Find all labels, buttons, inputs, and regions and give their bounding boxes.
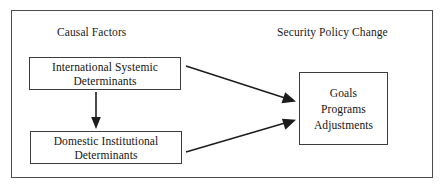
node-domestic-institutional-determinants: Domestic Institutional Determinants: [30, 131, 182, 164]
node-label-line-1: Domestic Institutional: [54, 134, 159, 148]
node-label-line-1: International Systemic: [52, 60, 158, 74]
node-label-line-3: Adjustments: [314, 117, 373, 133]
node-label-line-1: Goals: [330, 85, 357, 101]
figure-canvas: Causal Factors Security Policy Change In…: [0, 0, 445, 195]
node-international-systemic-determinants: International Systemic Determinants: [29, 57, 181, 90]
node-label-line-2: Determinants: [74, 148, 137, 162]
heading-security-policy-change: Security Policy Change: [277, 26, 388, 39]
heading-causal-factors: Causal Factors: [57, 26, 126, 39]
node-goals-programs-adjustments: Goals Programs Adjustments: [299, 72, 388, 145]
node-label-line-2: Determinants: [73, 74, 136, 88]
node-label-line-2: Programs: [321, 101, 366, 117]
